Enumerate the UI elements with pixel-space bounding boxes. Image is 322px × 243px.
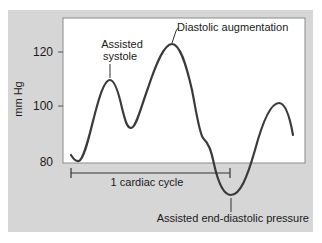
annotation-end-diastolic-pressure: Assisted end-diastolic pressure bbox=[157, 212, 309, 224]
annotation-cardiac-cycle: 1 cardiac cycle bbox=[111, 176, 184, 188]
annotation-diastolic-augmentation: Diastolic augmentation bbox=[177, 21, 288, 33]
annotation-assisted-systole-line2: systole bbox=[103, 50, 137, 62]
pressure-chart: 120 100 80 mm Hg Assisted systole Diasto… bbox=[0, 0, 322, 243]
y-tick-label-100: 100 bbox=[33, 99, 53, 113]
y-tick-label-80: 80 bbox=[40, 155, 54, 169]
plot-area bbox=[63, 18, 305, 163]
y-axis-label: mm Hg bbox=[12, 81, 24, 116]
y-tick-label-120: 120 bbox=[33, 45, 53, 59]
annotation-assisted-systole-line1: Assisted bbox=[101, 38, 143, 50]
